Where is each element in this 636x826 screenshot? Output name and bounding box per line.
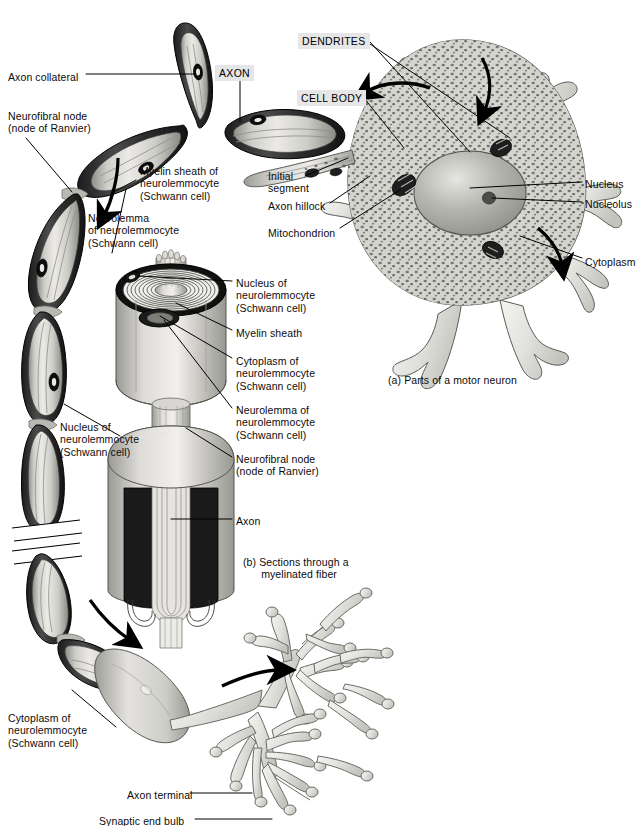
- label-axon-terminal: Axon terminal: [127, 789, 193, 801]
- label-nucleus-of-neurolemmocyte-section: Nucleus of neurolemmocyte (Schwann cell): [236, 277, 315, 314]
- label-nucleolus: Nucleolus: [585, 198, 632, 210]
- label-neurolemma-of-neurolemmocyte: Neurolemma of neurolemmocyte (Schwann ce…: [88, 212, 179, 249]
- label-mitochondrion: Mitochondrion: [268, 227, 335, 239]
- caption-a: (a) Parts of a motor neuron: [388, 374, 517, 386]
- label-neurolemma-of-neurolemmocyte-section: Neurolemma of neurolemmocyte (Schwann ce…: [236, 404, 315, 441]
- label-cytoplasm-of-neurolemmocyte-terminal: Cytoplasm of neurolemmocyte (Schwann cel…: [8, 712, 87, 749]
- label-myelin-sheath-section: Myelin sheath: [236, 327, 302, 339]
- label-initial-segment: Initial segment: [268, 170, 309, 195]
- label-cytoplasm-of-neurolemmocyte-section: Cytoplasm of neurolemmocyte (Schwann cel…: [236, 355, 315, 392]
- label-myelin-sheath-of-neurolemmocyte: Myelin sheath of neurolemmocyte (Schwann…: [140, 165, 219, 202]
- boxed-label-axon: AXON: [215, 65, 254, 81]
- label-axon-collateral: Axon collateral: [8, 71, 78, 83]
- caption-b: (b) Sections through a myelinated fiber: [243, 556, 349, 581]
- label-axon-hillock: Axon hillock: [268, 200, 325, 212]
- label-synaptic-end-bulb: Synaptic end bulb: [99, 815, 184, 826]
- label-neurofibral-node-section: Neurofibral node (node of Ranvier): [236, 453, 319, 478]
- label-nucleus-of-neurolemmocyte-chain: Nucleus of neurolemmocyte (Schwann cell): [60, 421, 139, 458]
- label-neurofibral-node-upper: Neurofibral node (node of Ranvier): [8, 110, 91, 135]
- neuron-illustration: [0, 0, 636, 826]
- boxed-label-cell-body: CELL BODY: [297, 90, 366, 106]
- label-axon-section: Axon: [236, 515, 260, 527]
- boxed-label-dendrites: DENDRITES: [298, 33, 370, 49]
- neuron-diagram-figure: DENDRITESAXONCELL BODY Axon collateralNe…: [0, 0, 636, 826]
- internode-3: [22, 312, 67, 425]
- label-cytoplasm: Cytoplasm: [585, 256, 636, 268]
- label-nucleus: Nucleus: [585, 178, 624, 190]
- nucleus-shape: [414, 151, 526, 235]
- section-upper-cylinder: [116, 264, 226, 406]
